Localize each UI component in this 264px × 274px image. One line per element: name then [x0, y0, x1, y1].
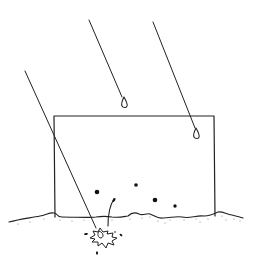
- rain-illustration: [0, 0, 264, 274]
- spot: [153, 198, 158, 203]
- ground-line: [9, 212, 243, 222]
- rain-streak-2: [89, 20, 122, 97]
- spot: [95, 190, 100, 195]
- illustration-svg: [0, 0, 264, 274]
- splash-strand: [108, 199, 114, 226]
- raindrop-icon: [122, 97, 128, 108]
- rain-streak-1: [25, 71, 96, 228]
- box-outline: [54, 116, 215, 217]
- splash-icon: [90, 228, 117, 248]
- soil-stipple: [18, 216, 241, 225]
- spot: [134, 183, 138, 187]
- raindrop-icon: [194, 128, 200, 139]
- spot: [173, 204, 176, 207]
- rain-streak-3: [153, 22, 195, 128]
- water-spots: [95, 183, 177, 208]
